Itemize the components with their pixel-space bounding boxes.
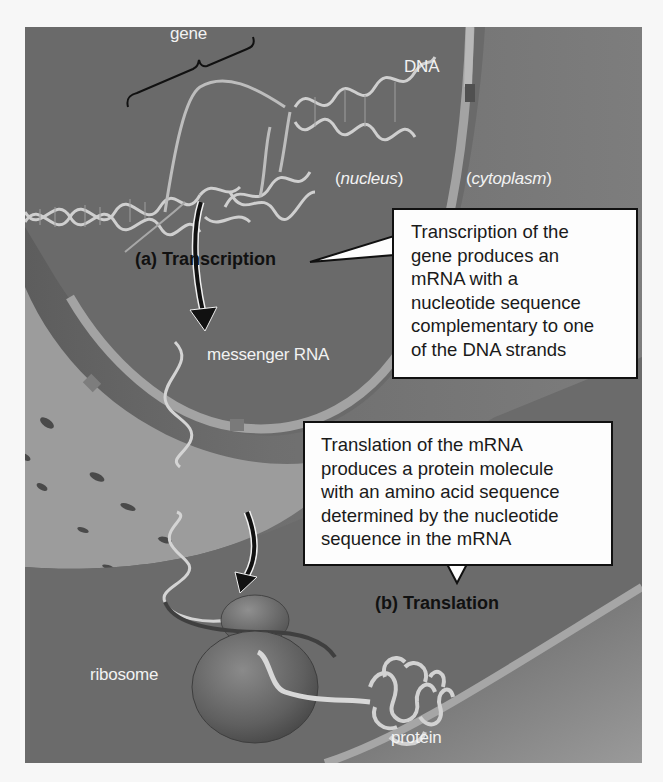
transcription-callout: Transcription of the gene produces an mR…: [392, 208, 638, 379]
callout-line: with an amino acid sequence: [321, 480, 603, 504]
callout-line: determined by the nucleotide: [321, 504, 603, 528]
nuclear-pore-top: [465, 84, 475, 102]
ribosome-label: ribosome: [90, 665, 158, 685]
callout-line: Transcription of the: [411, 220, 628, 244]
callout-line: of the DNA strands: [411, 338, 628, 362]
dna-label: DNA: [404, 57, 439, 77]
callout-line: complementary to one: [411, 314, 628, 338]
messenger-rna-label: messenger RNA: [207, 345, 329, 365]
translation-step-label: (b) Translation: [375, 593, 499, 614]
nucleus-label: (nucleus): [335, 169, 403, 189]
translation-callout: Translation of the mRNA produces a prote…: [303, 421, 613, 566]
callout-line: mRNA with a: [411, 267, 628, 291]
callout-line: sequence in the mRNA: [321, 527, 603, 551]
gene-label: gene: [170, 27, 207, 44]
transcription-translation-figure: gene DNA (nucleus) (cytoplasm) messenger…: [25, 27, 642, 763]
callout-line: gene produces an: [411, 244, 628, 268]
nuclear-pore-bottom: [230, 419, 244, 431]
transcription-step-label: (a) Transcription: [135, 249, 276, 270]
cytoplasm-label: (cytoplasm): [466, 169, 552, 189]
protein-label: protein: [391, 728, 442, 748]
callout-line: nucleotide sequence: [411, 291, 628, 315]
callout-line: Translation of the mRNA: [321, 433, 603, 457]
callout-line: produces a protein molecule: [321, 457, 603, 481]
cell-illustration: [25, 27, 642, 763]
